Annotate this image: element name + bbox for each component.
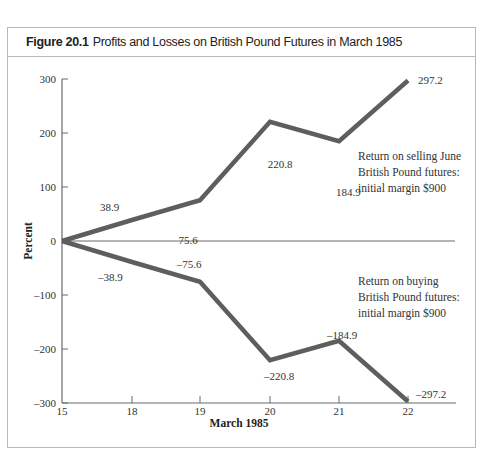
x-tick-label: 21 xyxy=(334,405,345,417)
buying-annotation: Return on buying xyxy=(358,275,439,288)
x-axis-title: March 1985 xyxy=(210,417,269,429)
y-tick-label: 300 xyxy=(40,73,57,85)
y-tick-label: 0 xyxy=(51,235,57,247)
data-point-label: –220.8 xyxy=(263,370,295,382)
x-tick-label: 18 xyxy=(127,405,139,417)
data-point-label: 38.9 xyxy=(100,201,120,213)
buying-annotation: British Pound futures: xyxy=(358,291,460,303)
buying-series-line xyxy=(62,241,408,401)
buying-annotation: initial margin $900 xyxy=(358,307,446,320)
y-tick-label: –100 xyxy=(33,289,57,301)
selling-series-line xyxy=(62,81,408,241)
selling-annotation: Return on selling June xyxy=(358,150,461,163)
data-point-label: –75.6 xyxy=(176,258,202,270)
data-point-label: 297.2 xyxy=(418,74,443,86)
selling-annotation: British Pound futures: xyxy=(358,166,460,178)
y-tick-label: –300 xyxy=(33,397,57,409)
line-chart: 3002001000–100–200–300151819202122March … xyxy=(0,0,493,468)
x-tick-label: 22 xyxy=(403,405,414,417)
data-point-label: –184.9 xyxy=(326,329,358,341)
y-tick-label: –200 xyxy=(33,343,57,355)
x-tick-label: 19 xyxy=(195,405,207,417)
data-point-label: 75.6 xyxy=(178,234,198,246)
data-point-label: 220.8 xyxy=(268,158,293,170)
selling-annotation: initial margin $900 xyxy=(358,182,446,195)
y-tick-label: 200 xyxy=(40,127,57,139)
y-axis-title: Percent xyxy=(22,222,34,260)
x-tick-label: 15 xyxy=(57,405,69,417)
x-tick-label: 20 xyxy=(265,405,277,417)
data-point-label: –38.9 xyxy=(97,271,123,283)
data-point-label: –297.2 xyxy=(415,388,446,400)
y-tick-label: 100 xyxy=(40,181,57,193)
